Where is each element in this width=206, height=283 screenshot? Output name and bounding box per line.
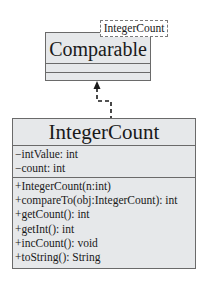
method-row: +incCount(): void	[13, 236, 195, 250]
attribute-row: −intValue: int	[13, 147, 195, 161]
arrowhead-icon	[94, 81, 101, 89]
integercount-class-box[interactable]: IntegerCount −intValue: int −count: int …	[12, 118, 196, 269]
name-compartment: IntegerCount	[13, 119, 195, 145]
interface-name: Comparable	[46, 33, 150, 64]
attributes-compartment	[46, 63, 150, 72]
template-parameter-box: IntegerCount	[100, 20, 168, 37]
dashed-connector-line	[97, 88, 111, 118]
method-row: +getCount(): int	[13, 207, 195, 221]
method-row: +compareTo(obj:IntegerCount): int	[13, 193, 195, 207]
comparable-interface-box[interactable]: Comparable	[45, 32, 151, 81]
methods-compartment: +IntegerCount(n:int) +compareTo(obj:Inte…	[13, 177, 195, 264]
method-row: +IntegerCount(n:int)	[13, 179, 195, 193]
methods-compartment	[46, 72, 150, 81]
name-compartment: Comparable	[46, 33, 150, 63]
attribute-row: −count: int	[13, 161, 195, 175]
attributes-compartment: −intValue: int −count: int	[13, 145, 195, 177]
method-row: +getInt(): int	[13, 222, 195, 236]
method-row: +toString(): String	[13, 250, 195, 264]
class-name: IntegerCount	[13, 119, 195, 145]
